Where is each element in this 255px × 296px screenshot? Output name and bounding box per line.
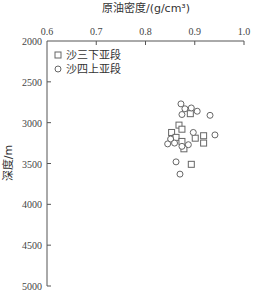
x-axis-title: 原油密度/(g/cm³) xyxy=(102,1,190,15)
circle-marker-icon xyxy=(190,129,196,135)
circle-marker-icon xyxy=(179,143,185,149)
x-axis-ticks: 0.60.70.80.91.0 xyxy=(41,26,251,45)
legend-label-series-1: 沙三下亚段 xyxy=(66,48,121,62)
circle-marker-icon xyxy=(185,142,191,148)
x-tick-label: 0.6 xyxy=(41,26,54,37)
circle-marker-icon xyxy=(177,171,183,177)
square-marker-icon xyxy=(192,135,198,141)
y-axis-title: 深度/m xyxy=(1,145,15,181)
scatter-chart: 原油密度/(g/cm³) 深度/m 0.60.70.80.91.0 200025… xyxy=(0,0,255,296)
circle-marker-icon xyxy=(173,159,179,165)
y-tick-label: 2500 xyxy=(22,77,42,88)
legend-circle-marker-icon xyxy=(55,66,61,72)
x-tick-label: 1.0 xyxy=(238,26,251,37)
circle-marker-icon xyxy=(188,105,194,111)
circle-marker-icon xyxy=(212,132,218,138)
y-tick-label: 2000 xyxy=(22,36,42,47)
y-tick-label: 5000 xyxy=(22,281,42,292)
square-marker-icon xyxy=(179,126,185,132)
square-marker-icon xyxy=(187,111,193,117)
y-tick-label: 3000 xyxy=(22,118,42,129)
square-marker-icon xyxy=(201,140,207,146)
legend-square-marker-icon xyxy=(55,52,61,58)
circle-marker-icon xyxy=(179,112,185,118)
square-marker-icon xyxy=(188,161,194,167)
y-tick-label: 4000 xyxy=(22,199,42,210)
circle-marker-icon xyxy=(182,106,188,112)
y-tick-label: 4500 xyxy=(22,240,42,251)
x-tick-label: 0.8 xyxy=(139,26,152,37)
circle-marker-icon xyxy=(172,140,178,146)
x-tick-label: 0.7 xyxy=(90,26,103,37)
circle-marker-icon xyxy=(207,112,213,118)
data-points xyxy=(165,101,218,177)
legend-label-series-2: 沙四上亚段 xyxy=(66,62,121,76)
x-tick-label: 0.9 xyxy=(189,26,202,37)
legend: 沙三下亚段 沙四上亚段 xyxy=(55,48,121,76)
square-marker-icon xyxy=(201,133,207,139)
y-tick-label: 3500 xyxy=(22,159,42,170)
circle-marker-icon xyxy=(194,108,200,114)
circle-marker-icon xyxy=(165,141,171,147)
